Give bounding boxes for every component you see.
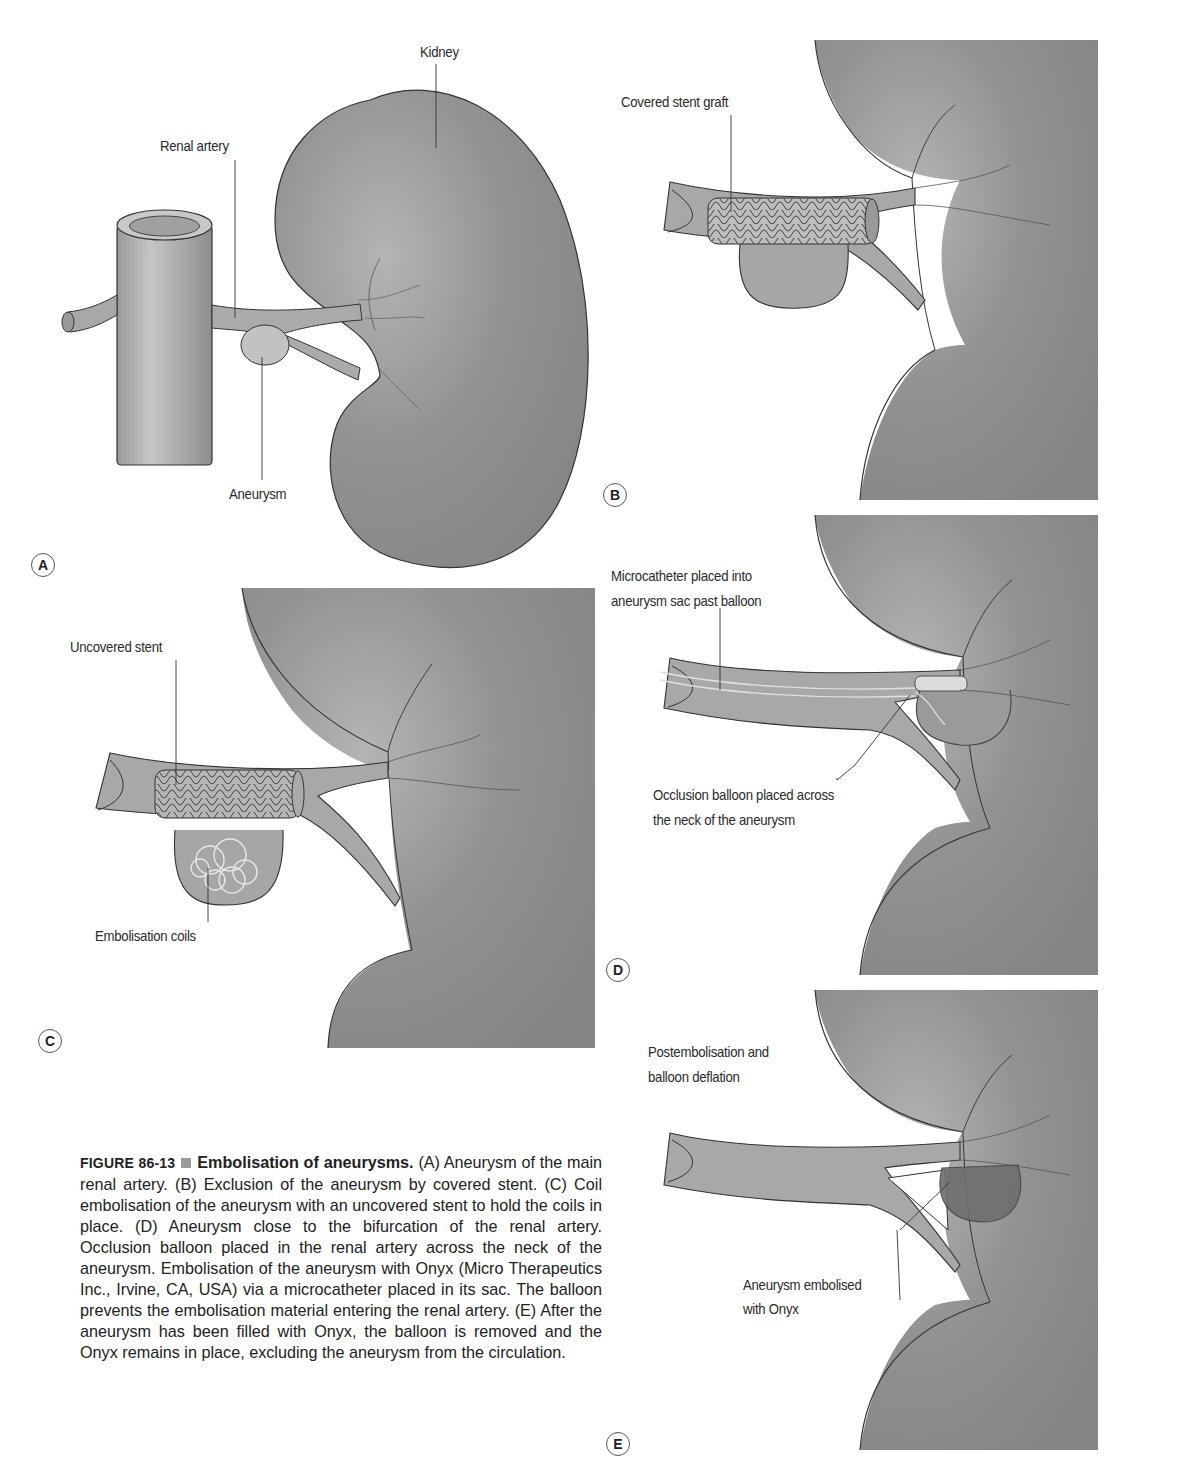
figure-caption: FIGURE 86-13Embolisation of aneurysms. (…: [80, 1152, 602, 1363]
panel-b-badge: B: [603, 483, 627, 507]
label-uncovered-stent: Uncovered stent: [70, 637, 162, 656]
label-onyx-line2: with Onyx: [743, 1299, 799, 1318]
figure-number: FIGURE 86-13: [80, 1155, 175, 1171]
label-postembolisation-line1: Postembolisation and: [648, 1042, 769, 1061]
caption-square-icon: [181, 1158, 191, 1168]
label-embolisation-coils: Embolisation coils: [95, 926, 196, 945]
panel-a-drawing: [62, 64, 588, 568]
label-kidney: Kidney: [420, 42, 459, 61]
panel-c-drawing: [96, 588, 595, 1048]
label-occlusion-balloon-line1: Occlusion balloon placed across: [653, 785, 834, 804]
label-occlusion-balloon-line2: the neck of the aneurysm: [653, 810, 795, 829]
caption-body: (A) Aneurysm of the main renal artery. (…: [80, 1153, 602, 1361]
label-microcatheter-line2: aneurysm sac past balloon: [611, 591, 761, 610]
label-renal-artery: Renal artery: [160, 136, 229, 155]
figure-title: Embolisation of aneurysms.: [197, 1153, 413, 1171]
label-covered-stent-graft: Covered stent graft: [621, 92, 728, 111]
label-microcatheter-line1: Microcatheter placed into: [611, 566, 752, 585]
panel-c-badge: C: [38, 1029, 62, 1053]
label-onyx-line1: Aneurysm embolised: [743, 1275, 862, 1294]
panel-b-drawing: [664, 40, 1098, 500]
panel-e-badge: E: [606, 1432, 630, 1456]
panel-a-badge: A: [31, 553, 55, 577]
label-postembolisation-line2: balloon deflation: [648, 1067, 740, 1086]
label-aneurysm: Aneurysm: [229, 484, 286, 503]
panel-d-badge: D: [606, 958, 630, 982]
